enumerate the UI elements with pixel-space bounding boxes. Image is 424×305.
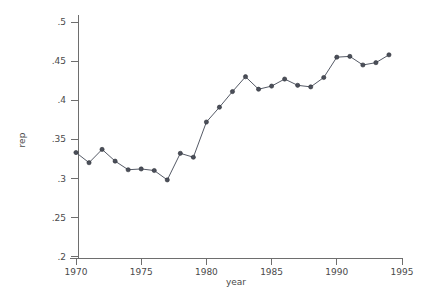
data-point-marker [335, 55, 339, 59]
y-tick-label: .5 [57, 17, 66, 27]
data-point-marker [126, 168, 130, 172]
y-tick-label: .3 [57, 174, 66, 184]
data-point-marker [230, 89, 234, 93]
y-tick-label: .25 [52, 213, 66, 223]
data-point-marker [309, 85, 313, 89]
data-point-marker [74, 150, 78, 154]
x-tick-label: 1985 [260, 267, 283, 277]
data-point-marker [256, 87, 260, 91]
data-point-marker [374, 61, 378, 65]
data-point-marker [387, 53, 391, 57]
x-tick-label: 1990 [325, 267, 348, 277]
data-point-marker [361, 63, 365, 67]
x-tick-label: 1975 [130, 267, 153, 277]
data-point-marker [348, 54, 352, 58]
data-point-marker [296, 83, 300, 87]
line-chart-canvas: .2.25.3.35.4.45.5 1970197519801985199019… [0, 0, 424, 305]
data-point-marker [322, 75, 326, 79]
y-tick-label: .35 [52, 134, 66, 144]
data-point-marker [113, 159, 117, 163]
series-markers-rep [74, 53, 391, 182]
x-tick-label: 1995 [391, 267, 414, 277]
data-point-marker [243, 75, 247, 79]
data-point-marker [270, 84, 274, 88]
series-line-rep [76, 55, 389, 180]
x-axis-ticks: 197019751980198519901995 [65, 258, 414, 277]
x-tick-label: 1970 [65, 267, 88, 277]
data-point-marker [283, 77, 287, 81]
data-point-marker [217, 105, 221, 109]
data-point-marker [178, 151, 182, 155]
data-point-marker [139, 167, 143, 171]
y-tick-label: .45 [52, 56, 66, 66]
x-axis-title: year [226, 277, 246, 287]
data-point-marker [100, 147, 104, 151]
y-tick-label: .2 [57, 252, 66, 262]
data-point-marker [87, 161, 91, 165]
chart-figure: .2.25.3.35.4.45.5 1970197519801985199019… [0, 0, 424, 305]
data-point-marker [165, 178, 169, 182]
data-point-marker [204, 120, 208, 124]
data-point-marker [191, 155, 195, 159]
y-axis-ticks: .2.25.3.35.4.45.5 [52, 17, 78, 262]
y-tick-label: .4 [57, 95, 66, 105]
y-axis-title: rep [17, 132, 27, 147]
data-point-marker [152, 168, 156, 172]
x-tick-label: 1980 [195, 267, 218, 277]
